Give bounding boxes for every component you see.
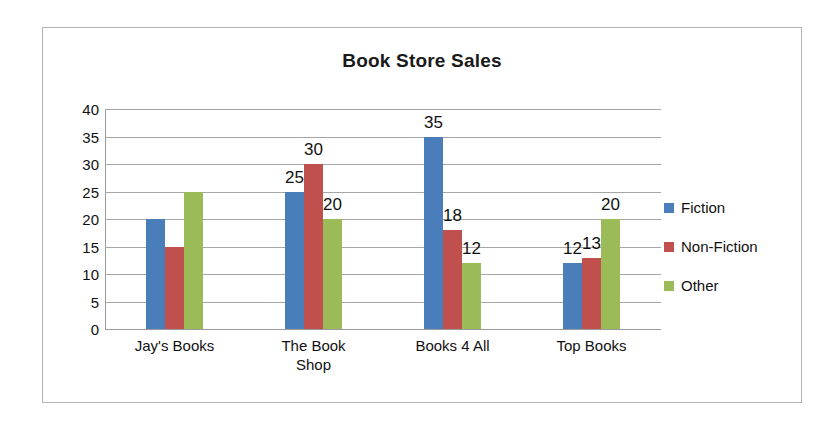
gridline [105, 137, 661, 138]
legend-item[interactable]: Fiction [664, 188, 794, 227]
x-category-label: The Book Shop [281, 336, 345, 374]
y-tick-label: 10 [57, 266, 99, 283]
bar[interactable] [443, 230, 462, 329]
legend-swatch-icon [664, 203, 674, 213]
plot-area: 253020351812121320 [105, 109, 661, 329]
bar-value-label: 20 [601, 195, 620, 215]
bar[interactable] [184, 192, 203, 330]
y-tick-label: 5 [57, 293, 99, 310]
bar[interactable] [146, 219, 165, 329]
bar[interactable] [165, 247, 184, 330]
bar[interactable] [424, 137, 443, 330]
bar[interactable] [462, 263, 481, 329]
legend: FictionNon-FictionOther [664, 188, 794, 305]
bar[interactable] [323, 219, 342, 329]
y-tick-label: 15 [57, 238, 99, 255]
bar-value-label: 30 [304, 140, 323, 160]
chart-container: Book Store Sales 4035302520151050 253020… [42, 27, 802, 403]
legend-label: Fiction [681, 199, 725, 216]
bar[interactable] [582, 258, 601, 330]
bar-value-label: 12 [563, 239, 582, 259]
y-tick-label: 0 [57, 321, 99, 338]
legend-label: Other [681, 277, 719, 294]
chart-title: Book Store Sales [43, 50, 801, 72]
x-category-label: Jay's Books [135, 336, 215, 355]
bar[interactable] [304, 164, 323, 329]
bar[interactable] [285, 192, 304, 330]
gridline [105, 109, 661, 110]
y-tick-label: 35 [57, 128, 99, 145]
bar-value-label: 12 [462, 239, 481, 259]
legend-swatch-icon [664, 281, 674, 291]
y-tick-label: 25 [57, 183, 99, 200]
bar[interactable] [563, 263, 582, 329]
bar-value-label: 13 [582, 234, 601, 254]
bar-value-label: 25 [285, 168, 304, 188]
legend-item[interactable]: Other [664, 266, 794, 305]
y-axis-tick-labels: 4035302520151050 [47, 109, 99, 329]
y-tick-label: 30 [57, 156, 99, 173]
legend-item[interactable]: Non-Fiction [664, 227, 794, 266]
y-tick-label: 20 [57, 211, 99, 228]
bar-value-label: 20 [323, 195, 342, 215]
bar[interactable] [601, 219, 620, 329]
bar-value-label: 18 [443, 206, 462, 226]
axis-baseline [105, 329, 661, 330]
x-category-label: Top Books [556, 336, 626, 355]
y-tick-label: 40 [57, 101, 99, 118]
x-category-label: Books 4 All [415, 336, 489, 355]
bar-value-label: 35 [424, 113, 443, 133]
gridline [105, 164, 661, 165]
legend-label: Non-Fiction [681, 238, 758, 255]
legend-swatch-icon [664, 242, 674, 252]
